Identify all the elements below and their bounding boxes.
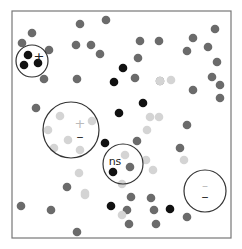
dot-light-gray: [146, 113, 155, 122]
dot-black: [24, 51, 33, 60]
plus-cluster: +: [16, 45, 48, 77]
ns-cluster: ns: [103, 144, 143, 184]
dot-dark-gray: [73, 75, 82, 84]
dot-light-gray: [44, 126, 53, 135]
dot-dark-gray: [40, 75, 49, 84]
dot-dark-gray: [73, 228, 82, 237]
dot-black: [20, 61, 29, 70]
dot-dark-gray: [183, 213, 192, 222]
dot-light-gray: [149, 166, 158, 175]
dot-light-gray: [88, 117, 97, 126]
dot-light-gray: [118, 211, 127, 220]
dot-dark-gray: [189, 86, 198, 95]
dot-light-gray: [64, 136, 73, 145]
dot-dark-gray: [76, 20, 85, 29]
dot-dark-gray: [127, 193, 136, 202]
dot-cluster-diagram: ++–ns––: [0, 0, 242, 249]
dot-dark-gray: [134, 54, 143, 63]
dot-light-gray: [50, 144, 59, 153]
dot-dark-gray: [131, 74, 140, 83]
dot-light-gray: [75, 169, 84, 178]
dot-black: [115, 109, 124, 118]
dot-dark-gray: [216, 81, 225, 90]
cluster-label: ns: [109, 155, 122, 168]
dot-dark-gray: [208, 73, 217, 82]
cluster-label: +: [34, 49, 45, 64]
diagram-canvas: ++–ns––: [0, 0, 242, 249]
dot-light-gray: [155, 113, 164, 122]
dot-black: [119, 64, 128, 73]
dot-dark-gray: [96, 50, 105, 59]
dot-dark-gray: [133, 137, 142, 146]
dot-dark-gray: [17, 202, 26, 211]
dot-black: [110, 78, 119, 87]
dot-dark-gray: [87, 41, 96, 50]
dot-light-gray: [143, 126, 152, 135]
dot-dark-gray: [176, 144, 185, 153]
dot-dark-gray: [213, 58, 222, 67]
dot-light-gray: [167, 76, 176, 85]
dot-dark-gray: [211, 25, 220, 34]
dot-dark-gray: [147, 194, 156, 203]
dot-dark-gray: [102, 16, 111, 25]
dot-dark-gray: [183, 121, 192, 130]
dot-light-gray: [81, 191, 90, 200]
dot-light-gray: [180, 156, 189, 165]
dot-light-gray: [76, 146, 85, 155]
dot-dark-gray: [150, 206, 159, 215]
dot-dark-gray: [28, 29, 37, 38]
dot-dark-gray: [155, 37, 164, 46]
dot-black: [166, 205, 175, 214]
dot-dark-gray: [216, 94, 225, 103]
dot-dark-gray: [183, 47, 192, 56]
dot-dark-gray: [204, 43, 213, 52]
dot-light-gray: [121, 151, 130, 160]
cluster-label: –: [77, 128, 84, 144]
dot-dark-gray: [152, 220, 161, 229]
dot-black: [107, 202, 116, 211]
minus-cluster: ––: [184, 170, 226, 212]
dot-dark-gray: [32, 104, 41, 113]
dots-layer: [17, 16, 225, 237]
dot-black: [101, 139, 110, 148]
bounding-frame: [12, 11, 231, 238]
dot-dark-gray: [126, 163, 135, 172]
cluster-label: –: [202, 188, 209, 204]
dot-dark-gray: [136, 37, 145, 46]
dot-light-gray: [56, 112, 65, 121]
dot-black: [139, 99, 148, 108]
dot-dark-gray: [125, 220, 134, 229]
dot-black: [109, 168, 118, 177]
dot-dark-gray: [47, 206, 56, 215]
dot-dark-gray: [63, 183, 72, 192]
dot-light-gray: [156, 77, 165, 86]
dot-dark-gray: [72, 41, 81, 50]
dot-dark-gray: [189, 34, 198, 43]
